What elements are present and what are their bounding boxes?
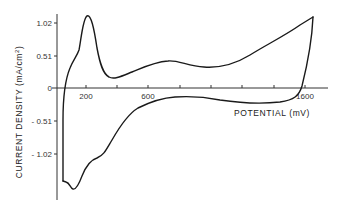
cathodic-sweep-curve <box>63 17 313 189</box>
y-tick-label: - 0.51 <box>32 117 53 126</box>
y-tick-label: 0 <box>48 84 53 93</box>
y-axis-title: CURRENT DENSITY (mA/cm2) <box>14 46 24 179</box>
cyclic-voltammogram-chart: 1.02 0.51 0 - 0.51 - 1.02 200 600 1600 P… <box>0 0 343 213</box>
y-tick-label: 0.51 <box>36 52 52 61</box>
x-axis-title: POTENTIAL (mV) <box>234 108 310 118</box>
x-tick-label: 200 <box>79 92 93 101</box>
y-tick-label: 1.02 <box>36 19 52 28</box>
y-tick-label: - 1.02 <box>32 150 53 159</box>
x-tick-label: 600 <box>141 92 155 101</box>
